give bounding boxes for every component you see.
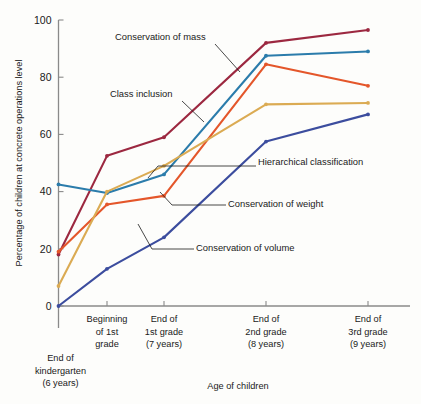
x-axis-tick-label: End of xyxy=(151,314,178,324)
x-axis-tick-label: End of xyxy=(253,314,280,324)
chart-axis-labels: End ofkindergarten(6 years)Beginningof 1… xyxy=(14,60,388,391)
series-annotation-label: Conservation of volume xyxy=(196,242,295,253)
chart-series-layer xyxy=(57,28,370,308)
series-data-point xyxy=(57,284,61,288)
chart-series xyxy=(57,112,370,307)
series-data-point xyxy=(264,140,268,144)
chart-series xyxy=(57,50,370,195)
x-axis-tick-label: End of xyxy=(355,314,382,324)
y-axis-title: Percentage of children at concrete opera… xyxy=(14,60,24,267)
x-axis-tick-label: kindergarten xyxy=(35,366,86,376)
y-axis-tick-label: 80 xyxy=(40,71,52,83)
y-axis-tick-label: 60 xyxy=(40,128,52,140)
x-axis-tick-label: 1st grade xyxy=(145,327,183,337)
y-axis-tick-label: 100 xyxy=(34,14,52,26)
y-axis-tick-label: 20 xyxy=(40,243,52,255)
series-data-point xyxy=(366,101,370,105)
x-axis-tick-label: 2nd grade xyxy=(245,327,286,337)
x-axis-tick-label: End of xyxy=(47,353,74,363)
line-chart-svg: 020406080100 Conservation of massClass i… xyxy=(0,0,421,404)
series-data-point xyxy=(105,154,109,158)
series-data-point xyxy=(105,190,109,194)
series-data-point xyxy=(264,41,268,45)
chart-series xyxy=(57,28,370,256)
series-data-point xyxy=(105,203,109,207)
series-data-point xyxy=(366,84,370,88)
x-axis-tick-label: (9 years) xyxy=(350,339,386,349)
annotation-leader-line xyxy=(160,192,226,205)
series-data-point xyxy=(366,50,370,54)
series-data-point xyxy=(264,54,268,58)
series-annotation-label: Conservation of mass xyxy=(115,31,206,42)
series-data-point xyxy=(264,62,268,66)
series-line xyxy=(59,103,369,286)
series-data-point xyxy=(57,183,61,187)
series-data-point xyxy=(162,173,166,177)
series-data-point xyxy=(162,135,166,139)
series-data-point xyxy=(366,112,370,116)
series-annotation-label: Hierarchical classification xyxy=(258,156,363,167)
x-axis-tick-label: (8 years) xyxy=(248,339,284,349)
chart-series xyxy=(57,101,370,288)
series-line xyxy=(59,51,369,193)
series-data-point xyxy=(105,267,109,271)
annotation-leader-line xyxy=(215,44,240,72)
series-data-point xyxy=(264,102,268,106)
x-axis-tick-label: (6 years) xyxy=(42,378,78,388)
series-data-point xyxy=(162,235,166,239)
x-axis-tick-label: 3rd grade xyxy=(348,327,387,337)
x-axis-tick-label: Beginning xyxy=(87,314,128,324)
series-annotation-label: Class inclusion xyxy=(110,88,173,99)
y-axis-tick-label: 0 xyxy=(46,300,52,312)
series-line xyxy=(59,114,369,306)
x-axis-tick-label: (7 years) xyxy=(146,339,182,349)
series-data-point xyxy=(366,28,370,32)
series-data-point xyxy=(57,250,61,254)
chart-container: 020406080100 Conservation of massClass i… xyxy=(0,0,421,404)
y-axis-tick-label: 40 xyxy=(40,185,52,197)
series-line xyxy=(59,30,369,255)
x-axis-title: Age of children xyxy=(207,381,268,391)
series-data-point xyxy=(57,304,61,308)
series-annotation-label: Conservation of weight xyxy=(228,198,324,209)
x-axis-tick-label: grade xyxy=(95,339,119,349)
x-axis-tick-label: of 1st xyxy=(96,327,119,337)
